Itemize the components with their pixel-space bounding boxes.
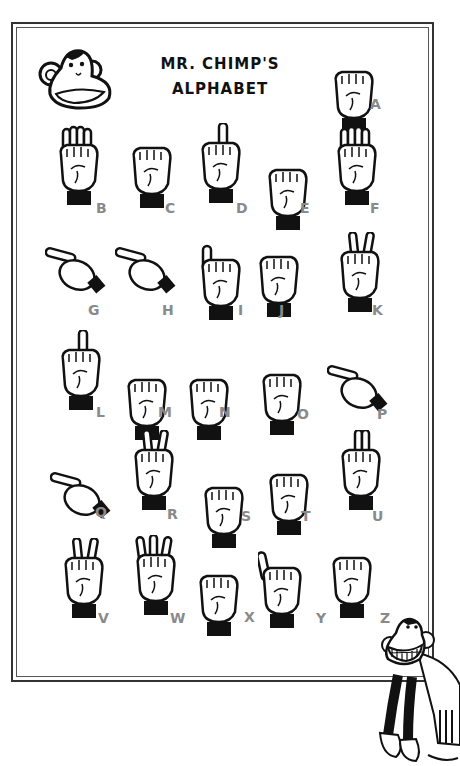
letter-label-b: B: [96, 200, 107, 216]
letter-label-r: R: [167, 506, 178, 522]
hand-sign-t-icon: [265, 455, 313, 537]
hand-sign-v-icon: [60, 538, 108, 620]
hand-sign-u-icon: [337, 430, 385, 512]
hand-sign-x-icon: [195, 556, 243, 638]
letter-label-a: A: [370, 96, 381, 112]
letter-label-p: P: [377, 406, 387, 422]
letter-label-m: M: [158, 404, 172, 420]
hand-sign-z-icon: [328, 538, 376, 620]
hand-sign-e-icon: [264, 150, 312, 232]
title-line-1: MR. CHIMP'S: [150, 52, 290, 77]
letter-label-l: L: [96, 404, 105, 420]
hand-sign-w-icon: [132, 535, 180, 617]
letter-label-i: I: [238, 302, 243, 318]
letter-label-d: D: [236, 200, 248, 216]
letter-label-t: T: [301, 508, 311, 524]
hand-sign-q-icon: [50, 470, 114, 534]
hand-sign-l-icon: [57, 330, 105, 412]
letter-label-k: K: [372, 302, 383, 318]
hand-sign-g-icon: [45, 245, 109, 309]
hand-sign-h-icon: [115, 245, 179, 309]
hand-sign-d-icon: [197, 123, 245, 205]
hand-sign-a-icon: [330, 52, 378, 134]
letter-label-j: J: [279, 302, 284, 318]
letter-label-x: X: [244, 609, 255, 625]
hand-sign-y-icon: [258, 548, 306, 630]
letter-label-q: Q: [95, 504, 107, 520]
letter-label-v: V: [98, 610, 109, 626]
letter-label-o: O: [297, 406, 309, 422]
letter-label-y: Y: [316, 610, 326, 626]
page-title: MR. CHIMP'S ALPHABET: [150, 52, 290, 102]
letter-label-f: F: [370, 200, 380, 216]
hand-sign-r-icon: [130, 430, 178, 512]
letter-label-g: G: [88, 302, 100, 318]
letter-label-n: N: [219, 404, 231, 420]
grinning-chimp-icon: [378, 615, 460, 766]
letter-label-h: H: [162, 302, 174, 318]
letter-label-w: W: [170, 610, 185, 626]
hand-sign-c-icon: [128, 128, 176, 210]
hand-sign-n-icon: [185, 360, 233, 442]
letter-label-e: E: [300, 200, 310, 216]
letter-label-c: C: [165, 200, 175, 216]
hand-sign-o-icon: [258, 355, 306, 437]
chimp-head-icon: [36, 46, 120, 112]
title-line-2: ALPHABET: [150, 77, 290, 102]
letter-label-u: U: [372, 508, 383, 524]
hand-sign-b-icon: [55, 125, 103, 207]
hand-sign-f-icon: [333, 125, 381, 207]
letter-label-s: S: [241, 508, 251, 524]
